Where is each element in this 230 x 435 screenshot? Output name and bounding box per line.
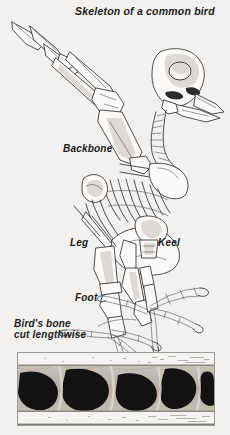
skull xyxy=(152,49,224,122)
label-bone-cut-line1: Bird's bone xyxy=(14,318,86,329)
label-foot: Foot xyxy=(75,292,97,303)
label-bone-cut-line2: cut lengthwise xyxy=(14,329,86,340)
label-bone-cut-lengthwise: Bird's bone cut lengthwise xyxy=(14,318,86,340)
label-keel: Keel xyxy=(158,237,180,248)
label-leg: Leg xyxy=(70,237,88,248)
label-backbone: Backbone xyxy=(63,143,112,154)
bone-cross-section-photo xyxy=(17,352,215,426)
bird-skeleton-figure: Skeleton of a common bird Backbone Leg K… xyxy=(0,0,230,435)
cortical-band-top xyxy=(18,353,214,366)
page-title: Skeleton of a common bird xyxy=(75,6,215,18)
bone-microstructure-image xyxy=(18,353,214,425)
